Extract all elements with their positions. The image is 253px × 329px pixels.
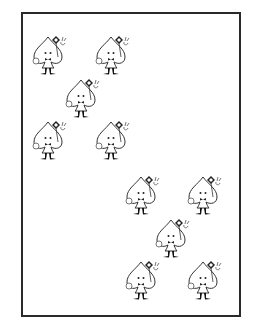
spade-character-icon	[93, 33, 133, 77]
spade-character-icon	[30, 118, 70, 162]
spade-character-icon	[185, 173, 225, 217]
spade-character-icon	[123, 258, 163, 302]
spade-character-icon	[63, 76, 103, 120]
spade-character-icon	[93, 118, 133, 162]
spade-character-icon	[123, 173, 163, 217]
spade-character-icon	[153, 216, 193, 260]
spade-character-icon	[30, 33, 70, 77]
spade-character-icon	[185, 258, 225, 302]
